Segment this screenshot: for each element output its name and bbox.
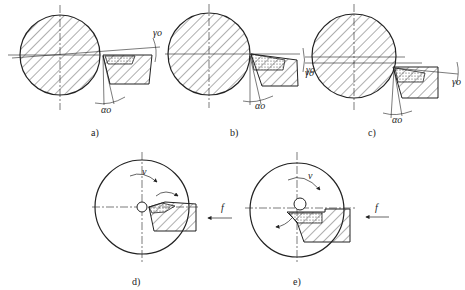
panel-a-clearance-label: αo bbox=[101, 104, 111, 115]
panel-d bbox=[92, 152, 232, 262]
panel-e-feed-label: f bbox=[375, 202, 378, 213]
panel-b bbox=[165, 4, 305, 108]
panel-c-rake-label: γo bbox=[452, 76, 461, 87]
panel-a-caption: a) bbox=[91, 127, 99, 138]
panel-e-velocity-label: v bbox=[308, 170, 312, 181]
panel-b-caption: b) bbox=[230, 127, 238, 138]
panel-c bbox=[305, 4, 458, 118]
cutting-tool-diagram bbox=[0, 0, 465, 290]
panel-e-caption: e) bbox=[293, 276, 301, 287]
panel-a-rake-label: γo bbox=[153, 27, 162, 38]
panel-a bbox=[8, 5, 160, 110]
panel-d-caption: d) bbox=[132, 276, 140, 287]
panel-b-clearance-label: αo bbox=[255, 100, 265, 111]
panel-c-clearance-label: αo bbox=[392, 114, 402, 125]
panel-c-caption: c) bbox=[368, 127, 376, 138]
panel-e bbox=[245, 152, 389, 262]
panel-c-left-rake-label: γo bbox=[305, 67, 314, 78]
panel-d-velocity-label: v bbox=[142, 166, 146, 177]
panel-d-feed-label: f bbox=[221, 202, 224, 213]
